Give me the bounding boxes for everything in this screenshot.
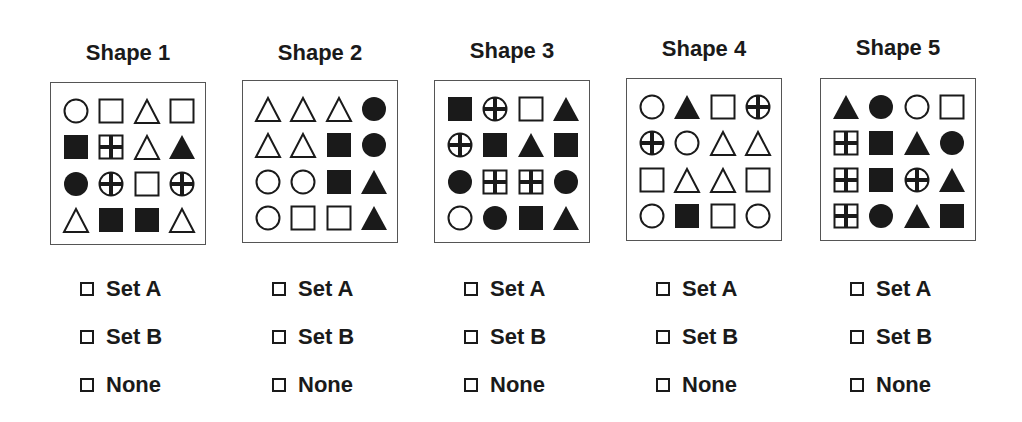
filled-triangle-icon: [517, 131, 545, 159]
option-label: Set A: [298, 276, 353, 302]
open-square-icon: [709, 202, 737, 230]
filled-triangle-icon: [552, 204, 580, 232]
checkbox[interactable]: [464, 330, 478, 344]
open-square-icon: [744, 166, 772, 194]
option-none[interactable]: None: [656, 371, 737, 399]
shape-title: Shape 5: [818, 35, 978, 61]
checkbox[interactable]: [656, 330, 670, 344]
option-label: None: [682, 372, 737, 398]
shape-panel: [820, 78, 976, 241]
checkbox[interactable]: [80, 330, 94, 344]
option-none[interactable]: None: [272, 371, 353, 399]
filled-triangle-icon: [903, 202, 931, 230]
option-set-a[interactable]: Set A: [850, 275, 931, 303]
filled-triangle-icon: [360, 204, 388, 232]
cross-square-icon: [832, 129, 860, 157]
shape-title: Shape 4: [624, 36, 784, 62]
option-set-b[interactable]: Set B: [656, 323, 738, 351]
shape-title: Shape 3: [432, 38, 592, 64]
checkbox[interactable]: [272, 378, 286, 392]
cross-square-icon: [481, 168, 509, 196]
filled-square-icon: [552, 131, 580, 159]
filled-square-icon: [867, 129, 895, 157]
cross-circle-icon: [168, 170, 196, 198]
open-triangle-icon: [254, 131, 282, 159]
shape-panel: [626, 78, 782, 241]
option-label: Set B: [298, 324, 354, 350]
filled-triangle-icon: [903, 129, 931, 157]
symbol-grid: [634, 89, 776, 234]
shape-column-5: Shape 5Set ASet BNone: [820, 0, 980, 422]
filled-square-icon: [325, 168, 353, 196]
checkbox[interactable]: [80, 282, 94, 296]
option-none[interactable]: None: [80, 371, 161, 399]
open-circle-icon: [673, 129, 701, 157]
cross-square-icon: [832, 202, 860, 230]
option-set-a[interactable]: Set A: [464, 275, 545, 303]
open-circle-icon: [289, 168, 317, 196]
checkbox[interactable]: [850, 378, 864, 392]
option-label: Set B: [682, 324, 738, 350]
open-circle-icon: [638, 202, 666, 230]
filled-square-icon: [938, 202, 966, 230]
filled-triangle-icon: [673, 93, 701, 121]
checkbox[interactable]: [80, 378, 94, 392]
filled-square-icon: [133, 206, 161, 234]
checkbox[interactable]: [656, 378, 670, 392]
checkbox[interactable]: [464, 282, 478, 296]
cross-square-icon: [832, 166, 860, 194]
option-none[interactable]: None: [464, 371, 545, 399]
open-square-icon: [325, 204, 353, 232]
filled-square-icon: [62, 133, 90, 161]
checkbox[interactable]: [272, 282, 286, 296]
shape-column-3: Shape 3Set ASet BNone: [434, 0, 594, 422]
filled-square-icon: [97, 206, 125, 234]
shape-panel: [50, 82, 206, 245]
open-square-icon: [168, 97, 196, 125]
option-set-b[interactable]: Set B: [850, 323, 932, 351]
filled-triangle-icon: [552, 95, 580, 123]
shape-column-2: Shape 2Set ASet BNone: [242, 0, 402, 422]
checkbox[interactable]: [656, 282, 670, 296]
filled-square-icon: [325, 131, 353, 159]
open-triangle-icon: [673, 166, 701, 194]
checkbox[interactable]: [464, 378, 478, 392]
symbol-grid: [58, 93, 200, 238]
open-triangle-icon: [709, 166, 737, 194]
checkbox[interactable]: [850, 330, 864, 344]
filled-triangle-icon: [938, 166, 966, 194]
open-circle-icon: [446, 204, 474, 232]
filled-circle-icon: [360, 131, 388, 159]
open-square-icon: [709, 93, 737, 121]
filled-triangle-icon: [168, 133, 196, 161]
filled-circle-icon: [938, 129, 966, 157]
option-none[interactable]: None: [850, 371, 931, 399]
open-triangle-icon: [133, 133, 161, 161]
filled-square-icon: [673, 202, 701, 230]
filled-circle-icon: [481, 204, 509, 232]
option-set-a[interactable]: Set A: [272, 275, 353, 303]
open-triangle-icon: [168, 206, 196, 234]
checkbox[interactable]: [272, 330, 286, 344]
open-square-icon: [938, 93, 966, 121]
open-square-icon: [638, 166, 666, 194]
option-label: None: [876, 372, 931, 398]
checkbox[interactable]: [850, 282, 864, 296]
filled-triangle-icon: [360, 168, 388, 196]
filled-square-icon: [867, 166, 895, 194]
open-circle-icon: [62, 97, 90, 125]
shape-column-1: Shape 1Set ASet BNone: [50, 0, 210, 422]
option-set-b[interactable]: Set B: [272, 323, 354, 351]
open-square-icon: [97, 97, 125, 125]
open-square-icon: [517, 95, 545, 123]
filled-circle-icon: [360, 95, 388, 123]
symbol-grid: [250, 91, 392, 236]
open-triangle-icon: [289, 131, 317, 159]
option-set-b[interactable]: Set B: [80, 323, 162, 351]
open-circle-icon: [254, 168, 282, 196]
open-circle-icon: [903, 93, 931, 121]
option-set-a[interactable]: Set A: [80, 275, 161, 303]
open-triangle-icon: [133, 97, 161, 125]
option-set-a[interactable]: Set A: [656, 275, 737, 303]
option-set-b[interactable]: Set B: [464, 323, 546, 351]
